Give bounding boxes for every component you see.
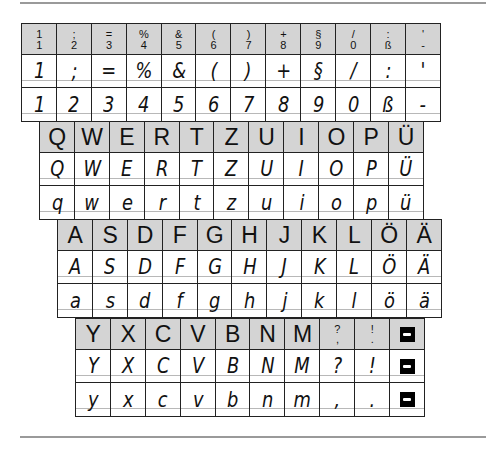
key-cell: w [74,185,110,220]
key-label: I [298,124,304,151]
space-key-icon [400,359,415,374]
key-label: R [154,124,171,151]
handwritten-glyph: y [88,388,99,412]
key-cell: D [127,250,163,285]
key-cell: +8 [265,23,301,55]
handwritten-glyph: G [208,255,222,279]
key-cell: x [110,382,146,417]
key-cell: K [301,250,337,285]
key-cell: &5 [161,23,197,55]
key-cell: I [283,152,319,187]
handwritten-glyph: 9 [313,93,324,117]
handwritten-glyph: ä [419,289,430,313]
key-cell: h [231,283,267,318]
key-cell [389,318,425,350]
key-cell: V [180,349,216,384]
number-row-shift: 1;=%&()+§/:' [21,55,441,89]
handwritten-glyph: 3 [103,93,114,117]
handwritten-glyph: N [261,354,274,378]
key-cell: 7 [230,87,266,122]
qwertz-row-lower: qwertzuiopü [39,187,424,221]
key-cell: G [197,250,233,285]
key-label: N [259,321,276,348]
handwritten-glyph: d [139,289,150,313]
key-cell: F [162,250,198,285]
key-cell: k [301,283,337,318]
key-cell: ?, [319,318,355,350]
handwritten-glyph: D [138,255,152,279]
key-cell: y [75,382,111,417]
handwritten-glyph: T [191,157,202,181]
handwritten-glyph: e [121,191,132,215]
key-cell: Ä [406,250,442,285]
key-cell: t [179,185,215,220]
qwertz-row-upper: QWERTZUIOPÜ [39,153,424,187]
key-cell: % [126,54,162,89]
key-lower-label: . [371,334,374,344]
key-cell: ) [230,54,266,89]
yxcv-row-lower: yxcvbnm,. [75,384,425,418]
key-cell: (6 [195,23,231,55]
key-lower-label: 1 [36,40,42,51]
handwritten-glyph: x [123,388,134,412]
asdf-row-lower: asdfghjklöä [57,285,442,319]
key-cell: A [57,219,93,251]
key-lower-label: 7 [245,40,251,51]
key-cell: B [215,349,251,384]
key-label: J [279,222,291,249]
key-cell: D [127,219,163,251]
handwritten-glyph: k [314,289,324,313]
key-cell: c [145,382,181,417]
handwritten-glyph: : [385,59,391,83]
handwritten-glyph: L [349,255,359,279]
key-cell [389,349,425,384]
key-cell: %4 [126,23,162,55]
key-cell: s [92,283,128,318]
key-cell: Z [213,152,249,187]
key-label: Q [48,124,66,151]
key-cell: = [91,54,127,89]
handwritten-glyph: c [158,388,168,412]
key-cell: 3 [91,87,127,122]
handwritten-glyph: J [282,255,287,279]
handwritten-glyph: Ü [400,157,413,181]
key-cell: : [370,54,406,89]
key-cell: d [127,283,163,318]
key-cell: ü [388,185,424,220]
key-lower-label: 9 [315,40,321,51]
key-cell: 0 [335,87,371,122]
key-cell: W [74,121,110,153]
key-label: C [155,321,172,348]
key-cell: F [162,219,198,251]
handwritten-glyph: q [52,191,63,215]
handwritten-glyph: . [369,388,375,412]
key-cell: Ö [371,219,407,251]
handwritten-glyph: K [314,255,326,279]
key-cell: b [215,382,251,417]
handwritten-glyph: % [135,59,152,83]
key-cell: ä [406,283,442,318]
key-label: Ö [380,222,398,249]
key-lower-label: , [336,334,339,344]
key-cell: i [283,185,319,220]
key-label: P [364,124,379,151]
key-label: F [173,222,187,249]
key-cell: Q [39,152,75,187]
handwritten-glyph: O [329,157,343,181]
key-cell: X [110,349,146,384]
key-cell: & [161,54,197,89]
handwritten-glyph: o [331,191,342,215]
handwritten-glyph: s [105,289,114,313]
key-cell: q [39,185,75,220]
key-cell: 5 [161,87,197,122]
key-cell: p [353,185,389,220]
key-cell: Ü [388,152,424,187]
handwritten-glyph: h [244,289,255,313]
handwritten-glyph: ) [245,59,252,83]
qwertz-row-header: QWERTZUIOPÜ [39,121,424,153]
key-cell: l [336,283,372,318]
handwritten-glyph: I [299,157,304,181]
key-cell: Ö [371,250,407,285]
handwritten-glyph: n [262,388,273,412]
key-cell: J [266,250,302,285]
